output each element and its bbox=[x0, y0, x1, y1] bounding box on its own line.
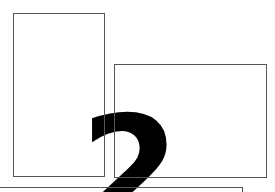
rectangle-left-tall bbox=[13, 13, 105, 177]
rectangle-right bbox=[114, 64, 267, 178]
rectangle-bottom bbox=[0, 187, 243, 192]
